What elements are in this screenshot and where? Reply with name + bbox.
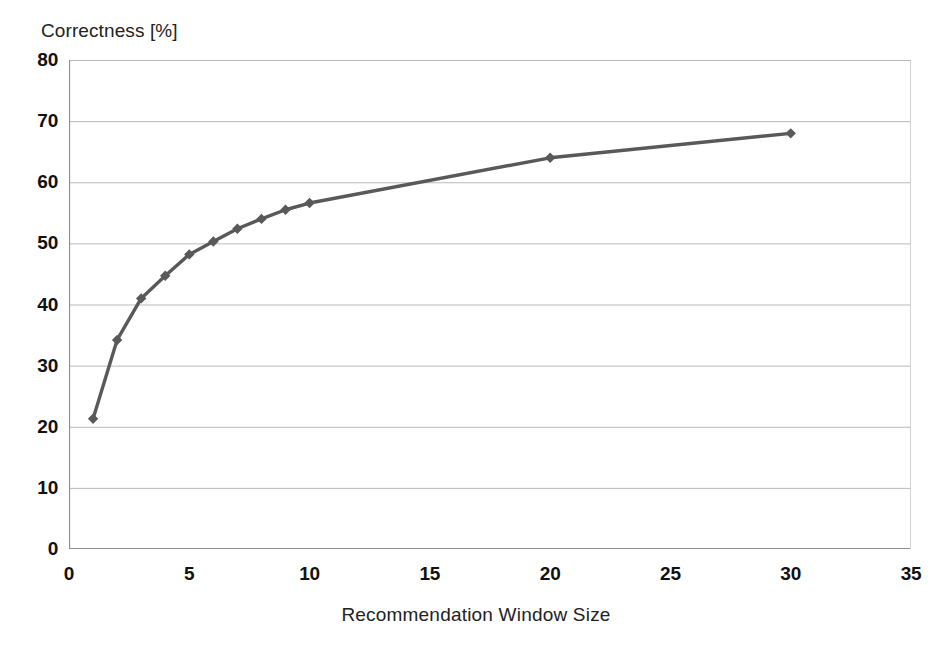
data-point-marker (280, 205, 290, 215)
x-tick-label-35: 35 (889, 563, 933, 585)
chart-container: Correctness [%] 01020304050607080 051015… (0, 0, 952, 652)
chart-svg (69, 60, 911, 549)
data-point-marker (786, 128, 796, 138)
x-tick-label-0: 0 (47, 563, 91, 585)
y-tick-label-40: 40 (12, 294, 58, 316)
y-axis-title: Correctness [%] (41, 20, 178, 42)
x-tick-label-30: 30 (769, 563, 813, 585)
data-point-marker (88, 414, 98, 424)
y-tick-label-50: 50 (12, 232, 58, 254)
data-point-marker (256, 214, 266, 224)
data-point-marker (304, 198, 314, 208)
series-line-0 (93, 133, 791, 418)
x-axis-title: Recommendation Window Size (0, 604, 952, 626)
x-tick-label-5: 5 (167, 563, 211, 585)
y-tick-label-0: 0 (12, 538, 58, 560)
y-tick-label-10: 10 (12, 477, 58, 499)
data-series (88, 128, 796, 424)
x-tick-label-10: 10 (288, 563, 332, 585)
x-tick-label-15: 15 (408, 563, 452, 585)
plot-area (69, 60, 911, 549)
y-tick-label-20: 20 (12, 416, 58, 438)
y-tick-label-60: 60 (12, 171, 58, 193)
y-tick-label-70: 70 (12, 110, 58, 132)
y-tick-label-80: 80 (12, 49, 58, 71)
x-tick-label-25: 25 (648, 563, 692, 585)
data-point-marker (545, 153, 555, 163)
y-tick-label-30: 30 (12, 355, 58, 377)
x-tick-label-20: 20 (528, 563, 572, 585)
